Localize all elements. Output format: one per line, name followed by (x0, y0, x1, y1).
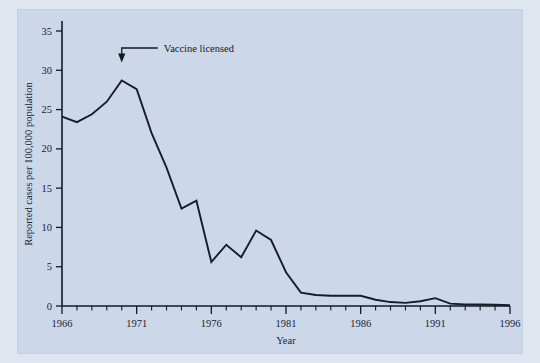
x-tick-label: 1986 (350, 318, 371, 329)
annotation-arrowhead (118, 53, 125, 62)
x-tick-label: 1991 (425, 318, 446, 329)
y-axis-ticks (56, 31, 62, 306)
x-axis-tick-labels: 1966197119761981198619911996 (52, 318, 521, 329)
y-tick-label: 30 (42, 65, 53, 76)
y-tick-label: 35 (42, 26, 53, 37)
figure-panel: 05101520253035 1966197119761981198619911… (18, 10, 522, 353)
y-axis-title: Reported cases per 100,000 population (23, 81, 34, 245)
x-axis-major-ticks (62, 306, 510, 314)
y-tick-label: 25 (42, 104, 53, 115)
x-tick-label: 1996 (500, 318, 521, 329)
annotation-label: Vaccine licensed (164, 43, 235, 54)
x-axis-title: Year (276, 335, 296, 346)
annotation-leader-line (122, 48, 158, 54)
line-chart-svg: 05101520253035 1966197119761981198619911… (18, 10, 522, 353)
y-tick-label: 5 (47, 261, 52, 272)
x-tick-label: 1981 (276, 318, 297, 329)
y-tick-label: 0 (47, 301, 52, 312)
y-tick-label: 20 (42, 143, 53, 154)
x-tick-label: 1966 (52, 318, 73, 329)
data-series-line (62, 81, 510, 306)
y-tick-label: 10 (42, 222, 53, 233)
chart-plot-area: 05101520253035 1966197119761981198619911… (18, 10, 522, 353)
x-tick-label: 1976 (201, 318, 222, 329)
y-tick-label: 15 (42, 183, 53, 194)
x-tick-label: 1971 (126, 318, 147, 329)
y-axis-tick-labels: 05101520253035 (42, 26, 53, 312)
